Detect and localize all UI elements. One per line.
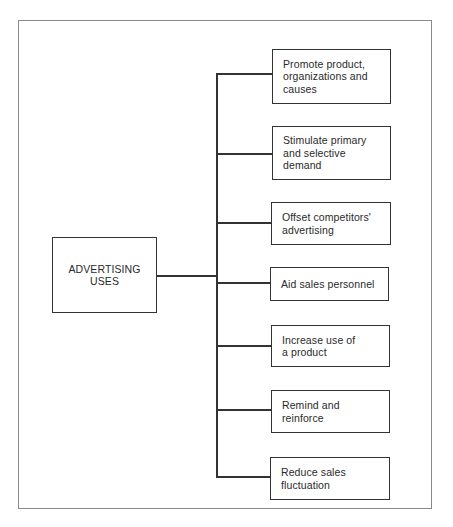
child-node-offset-competitors: Offset competitors' advertising (271, 202, 391, 245)
child-node-label: Stimulate primary and selective demand (283, 134, 366, 172)
child-node-label: Offset competitors' advertising (282, 211, 371, 236)
child-node-promote: Promote product, organizations and cause… (272, 49, 391, 104)
child-node-label: Reduce sales fluctuation (281, 466, 346, 491)
branch-line-3 (216, 222, 271, 224)
branch-line-4 (216, 282, 270, 284)
child-node-label: Aid sales personnel (281, 278, 375, 291)
child-node-aid-sales: Aid sales personnel (270, 267, 389, 301)
root-node-advertising-uses: ADVERTISING USES (52, 237, 157, 313)
branch-line-5 (216, 345, 271, 347)
branch-line-6 (216, 409, 271, 411)
child-node-reduce-fluctuation: Reduce sales fluctuation (270, 457, 390, 500)
branch-line-7 (216, 476, 270, 478)
trunk-line (216, 73, 218, 477)
child-node-remind-reinforce: Remind and reinforce (271, 390, 390, 433)
child-node-stimulate-demand: Stimulate primary and selective demand (272, 126, 391, 180)
child-node-label: Remind and reinforce (282, 399, 340, 424)
child-node-label: Increase use of a product (282, 334, 355, 359)
root-connector-line (156, 275, 217, 277)
child-node-increase-use: Increase use of a product (271, 325, 390, 367)
root-node-label: ADVERTISING USES (68, 263, 140, 288)
branch-line-1 (216, 73, 272, 75)
branch-line-2 (216, 153, 272, 155)
child-node-label: Promote product, organizations and cause… (283, 58, 368, 96)
